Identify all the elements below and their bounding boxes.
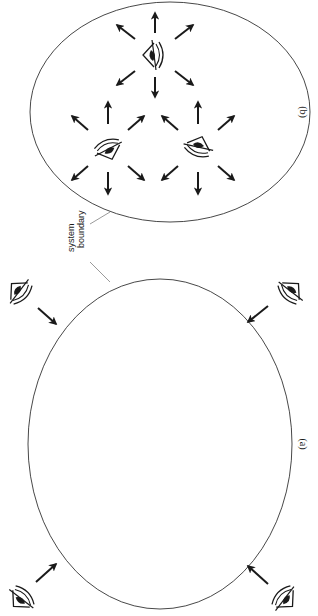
eye-icon <box>274 273 309 308</box>
leader-line-b <box>90 212 110 224</box>
panel-label-b: (b) <box>297 106 309 118</box>
observer-inside-1 <box>117 13 193 97</box>
observer-outside-4 <box>248 566 303 616</box>
system-boundary-diagram: (b) system boundary (a) <box>0 0 318 616</box>
eye-icon <box>1 273 36 308</box>
observer-outside-3 <box>3 564 56 616</box>
panel-a: (a) <box>1 273 309 616</box>
system-boundary-annotation: system boundary <box>66 210 110 282</box>
system-boundary-circle-a <box>28 279 292 609</box>
eye-icon <box>3 582 38 616</box>
system-boundary-circle-b <box>30 2 310 222</box>
eye-icon <box>143 40 163 70</box>
panel-b: (b) <box>30 2 310 222</box>
observer-outside-1 <box>1 273 56 324</box>
annotation-line-2: boundary <box>76 210 86 248</box>
eye-icon <box>268 582 303 616</box>
leader-line-a <box>90 262 110 282</box>
eye-icon <box>181 132 216 161</box>
annotation-line-1: system <box>66 223 76 252</box>
eye-icon <box>91 135 126 164</box>
observer-inside-3 <box>162 102 234 194</box>
observer-outside-2 <box>248 273 309 322</box>
panel-label-a: (a) <box>297 438 309 449</box>
svg-text:system: system <box>66 223 76 252</box>
observer-inside-2 <box>72 102 144 194</box>
svg-text:boundary: boundary <box>76 210 86 248</box>
